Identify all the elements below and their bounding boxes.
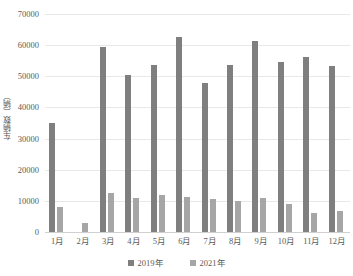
x-axis-tick-label: 9月 bbox=[248, 234, 273, 248]
bar-2021年-4月 bbox=[133, 198, 139, 232]
chart-legend: 2019年2021年 bbox=[0, 255, 353, 271]
bars-layer bbox=[45, 14, 350, 232]
bar-group bbox=[45, 14, 70, 232]
bar-2021年-1月 bbox=[57, 207, 63, 232]
bar-group bbox=[299, 14, 324, 232]
x-axis-tick-label: 8月 bbox=[223, 234, 248, 248]
legend-swatch-icon bbox=[128, 260, 134, 266]
x-axis-tick-label: 3月 bbox=[96, 234, 121, 248]
bar-2019年-1月 bbox=[49, 123, 55, 232]
legend-item-2021年[interactable]: 2021年 bbox=[190, 259, 226, 268]
bar-2019年-3月 bbox=[100, 47, 106, 232]
bar-2021年-3月 bbox=[108, 193, 114, 232]
bar-2021年-12月 bbox=[337, 211, 343, 232]
bar-2019年-9月 bbox=[252, 41, 258, 232]
x-axis-tick-label: 7月 bbox=[198, 234, 223, 248]
y-axis-title-text: 车辆数（辆） bbox=[3, 92, 12, 140]
bar-group bbox=[325, 14, 350, 232]
x-axis-line bbox=[45, 232, 350, 233]
y-axis-tick-label: 30000 bbox=[12, 134, 42, 143]
bar-2021年-9月 bbox=[260, 198, 266, 232]
x-axis-tick-label: 11月 bbox=[299, 234, 324, 248]
bar-2021年-7月 bbox=[210, 199, 216, 232]
legend-label: 2019年 bbox=[138, 259, 164, 268]
y-axis-tick-label: 10000 bbox=[12, 197, 42, 206]
bar-group bbox=[248, 14, 273, 232]
bar-2019年-11月 bbox=[303, 57, 309, 232]
y-axis-tick-label: 0 bbox=[12, 228, 42, 237]
bar-group bbox=[172, 14, 197, 232]
legend-item-2019年[interactable]: 2019年 bbox=[128, 259, 164, 268]
bar-2021年-5月 bbox=[159, 195, 165, 232]
x-axis-tick-labels: 1月2月3月4月5月6月7月8月9月10月11月12月 bbox=[45, 234, 350, 250]
bar-group bbox=[121, 14, 146, 232]
x-axis-tick-label: 6月 bbox=[172, 234, 197, 248]
bar-group bbox=[147, 14, 172, 232]
bar-2019年-5月 bbox=[151, 65, 157, 232]
bar-group bbox=[96, 14, 121, 232]
x-axis-tick-label: 5月 bbox=[147, 234, 172, 248]
bar-chart: 车辆数（辆） 700006000050000400003000020000100… bbox=[0, 0, 353, 276]
y-axis-tick-label: 70000 bbox=[12, 10, 42, 19]
y-axis-tick-label: 60000 bbox=[12, 41, 42, 50]
x-axis-tick-label: 10月 bbox=[274, 234, 299, 248]
bar-2019年-10月 bbox=[278, 62, 284, 232]
legend-label: 2021年 bbox=[200, 259, 226, 268]
x-axis-tick-label: 2月 bbox=[70, 234, 95, 248]
y-axis-tick-label: 20000 bbox=[12, 165, 42, 174]
bar-group bbox=[70, 14, 95, 232]
bar-2021年-10月 bbox=[286, 204, 292, 232]
bar-group bbox=[198, 14, 223, 232]
y-axis-tick-label: 40000 bbox=[12, 103, 42, 112]
bar-2019年-7月 bbox=[202, 83, 208, 232]
y-axis-tick-labels: 700006000050000400003000020000100000 bbox=[12, 0, 42, 232]
bar-group bbox=[223, 14, 248, 232]
x-axis-tick-label: 4月 bbox=[121, 234, 146, 248]
y-axis-tick-label: 50000 bbox=[12, 72, 42, 81]
x-axis-tick-label: 1月 bbox=[45, 234, 70, 248]
bar-group bbox=[274, 14, 299, 232]
bar-2021年-11月 bbox=[311, 213, 317, 232]
bar-2019年-12月 bbox=[329, 66, 335, 232]
bar-2019年-6月 bbox=[176, 37, 182, 232]
bar-2021年-8月 bbox=[235, 201, 241, 232]
x-axis-tick-label: 12月 bbox=[325, 234, 350, 248]
bar-2021年-6月 bbox=[184, 197, 190, 232]
bar-2019年-4月 bbox=[125, 75, 131, 232]
bar-2021年-2月 bbox=[82, 223, 88, 232]
legend-swatch-icon bbox=[190, 260, 196, 266]
bar-2019年-8月 bbox=[227, 65, 233, 232]
